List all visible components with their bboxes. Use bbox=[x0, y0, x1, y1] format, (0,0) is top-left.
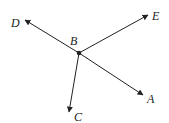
point-b-dot bbox=[77, 51, 82, 56]
ray-BA bbox=[79, 53, 143, 95]
ray-BE bbox=[79, 15, 148, 53]
point-b-label: B bbox=[70, 34, 78, 48]
rays bbox=[25, 15, 148, 112]
ray-labels: DEAC bbox=[10, 9, 160, 123]
geometry-diagram: B DEAC bbox=[0, 0, 169, 123]
point-e-label: E bbox=[151, 9, 160, 23]
point-a-label: A bbox=[146, 92, 155, 106]
point-c-label: C bbox=[74, 110, 83, 123]
ray-BC bbox=[69, 53, 79, 112]
point-d-label: D bbox=[10, 16, 20, 30]
